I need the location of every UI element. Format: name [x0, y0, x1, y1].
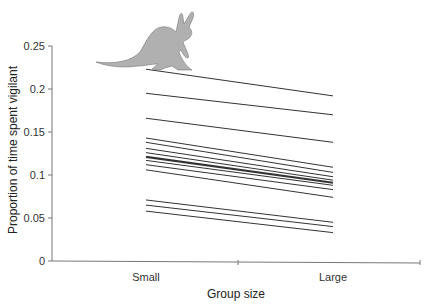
x-axis-title: Group size [207, 287, 265, 301]
series-line [146, 170, 333, 198]
x-tick-label-large: Large [319, 271, 347, 283]
series-line [146, 93, 333, 115]
x-axis [52, 261, 420, 263]
y-tick-label: 0.15 [24, 126, 45, 138]
y-tick-label: 0.05 [24, 212, 45, 224]
series-line [146, 153, 333, 181]
kangaroo-icon [96, 12, 194, 70]
series-line [146, 200, 333, 222]
series-line [146, 142, 333, 172]
y-tick-label: 0.1 [30, 169, 45, 181]
x-tick-label-small: Small [132, 271, 160, 283]
series-line [146, 211, 333, 233]
y-tick-label: 0.2 [30, 83, 45, 95]
y-ticks: 00.050.10.150.20.25 [24, 40, 52, 267]
y-tick-label: 0 [39, 255, 45, 267]
series-line [146, 157, 333, 183]
series-line [146, 118, 333, 142]
series-line [146, 69, 333, 96]
chart: 00.050.10.150.20.25 Small Large Group si… [0, 0, 430, 305]
series-lines [146, 69, 333, 232]
series-line [146, 205, 333, 227]
y-axis-title: Proportion of time spent vigilant [6, 65, 20, 234]
series-line [146, 165, 333, 190]
y-tick-label: 0.25 [24, 40, 45, 52]
